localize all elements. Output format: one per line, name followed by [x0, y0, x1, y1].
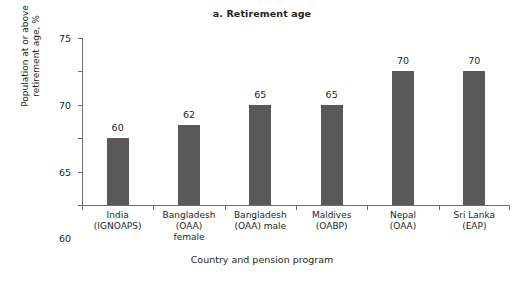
bar-value-label: 70 — [397, 55, 409, 66]
y-tick-label: 65 — [59, 166, 71, 177]
bar[interactable] — [178, 125, 200, 205]
y-tick-mark: 55 — [78, 172, 82, 173]
y-tick-mark: 65 — [78, 105, 82, 106]
y-axis-line — [82, 38, 83, 205]
bar[interactable] — [392, 71, 414, 205]
x-axis-title: Country and pension program — [0, 254, 524, 265]
y-axis-title: Population at or above retirement age, % — [14, 0, 48, 141]
bar[interactable] — [107, 138, 129, 205]
y-tick-label: 70 — [59, 99, 71, 110]
bar[interactable] — [463, 71, 485, 205]
x-category-label: Sri Lanka (EAP) — [431, 210, 517, 232]
bar-value-label: 70 — [468, 55, 480, 66]
bar-value-label: 60 — [112, 122, 124, 133]
chart-title: a. Retirement age — [0, 8, 524, 19]
y-tick-mark: 70 — [78, 71, 82, 72]
y-tick-label: 75 — [59, 33, 71, 44]
chart-figure: a. Retirement age Population at or above… — [0, 0, 524, 281]
bar-value-label: 65 — [254, 89, 266, 100]
bar-value-label: 65 — [326, 89, 338, 100]
y-tick-mark: 75 — [78, 38, 82, 39]
plot-area: 505560657075 606265657070 — [82, 38, 510, 205]
bar[interactable] — [321, 105, 343, 205]
y-tick-mark: 60 — [78, 138, 82, 139]
bar-value-label: 62 — [183, 109, 195, 120]
y-tick-label: 60 — [59, 233, 71, 244]
y-axis-title-text: Population at or above retirement age, % — [20, 5, 43, 107]
bar[interactable] — [249, 105, 271, 205]
